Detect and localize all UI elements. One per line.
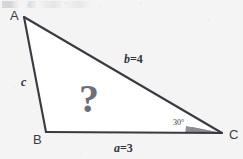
- side-label-a: a=3: [114, 142, 133, 154]
- side-b-equals: =: [130, 52, 137, 66]
- vertex-label-b: B: [33, 133, 42, 146]
- side-b-value: 4: [137, 52, 143, 66]
- unknown-question-mark: ?: [79, 79, 99, 119]
- triangle-figure: A B C c b=4 a=3 30° ?: [0, 0, 243, 159]
- side-label-b: b=4: [124, 53, 143, 65]
- vertex-label-a: A: [10, 9, 19, 22]
- side-a-equals: =: [120, 141, 127, 155]
- side-label-c: c: [21, 76, 26, 88]
- angle-label-30-degrees: 30°: [173, 119, 184, 127]
- side-a-line: [46, 132, 222, 133]
- side-a-value: 3: [127, 141, 133, 155]
- vertex-label-c: C: [229, 128, 238, 141]
